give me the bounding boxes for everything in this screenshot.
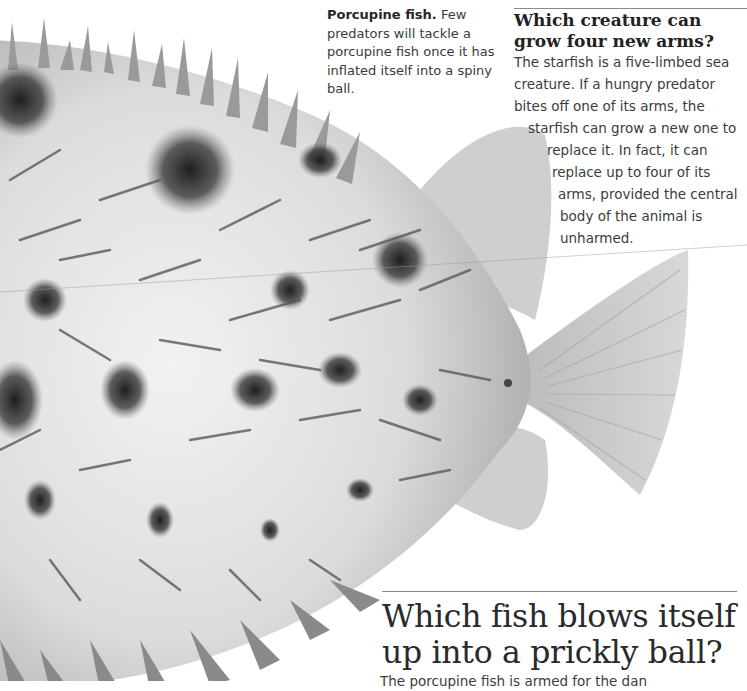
starfish-body-line: creature. If a hungry predator <box>514 74 715 96</box>
title-line: Which creature can <box>514 10 744 31</box>
porcupine-fish-caption: Porcupine fish. Few predators will tackl… <box>327 6 502 99</box>
starfish-body-line: unharmed. <box>560 228 634 250</box>
title-line: grow four new arms? <box>514 31 744 52</box>
starfish-body-line: replace it. In fact, it can <box>547 140 708 162</box>
starfish-body-line: The starfish is a five-limbed sea <box>514 52 729 74</box>
caption-lead: Porcupine fish. <box>327 7 437 22</box>
porcupine-section-rule <box>382 591 737 592</box>
starfish-body-line: replace up to four of its <box>552 162 710 184</box>
porcupine-body-partial: The porcupine fish is armed for the dan <box>380 671 740 691</box>
starfish-body-line: bites off one of its arms, the <box>514 96 705 118</box>
starfish-section-title: Which creature can grow four new arms? <box>514 10 744 52</box>
starfish-body-line: arms, provided the central <box>558 184 738 206</box>
starfish-body-line: starfish can grow a new one to <box>528 118 736 140</box>
title-line: Which fish blows itself <box>382 598 747 634</box>
title-line: up into a prickly ball? <box>382 634 747 670</box>
starfish-section-rule <box>514 8 747 9</box>
porcupine-section-title: Which fish blows itself up into a prickl… <box>382 598 747 670</box>
starfish-body-line: body of the animal is <box>560 206 702 228</box>
